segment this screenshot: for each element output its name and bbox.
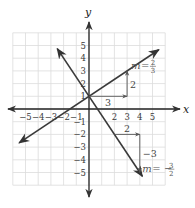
x-tick-label: 5 (150, 112, 155, 122)
x-tick-label: 4 (137, 112, 142, 122)
slope-label-prefix: m (142, 163, 151, 174)
rise-label: −3 (143, 148, 157, 159)
y-tick-label: 5 (81, 41, 86, 51)
rise-label: 2 (130, 79, 136, 90)
y-tick-label: 4 (81, 53, 86, 63)
slope-numerator: 3 (169, 162, 173, 170)
x-tick-label: 3 (124, 112, 129, 122)
x-axis-label: x (183, 103, 190, 116)
y-tick-label: −1 (73, 117, 86, 127)
y-tick-label: −4 (73, 155, 86, 165)
slope-label-equals: = (141, 60, 149, 71)
x-tick-label: 2 (112, 112, 117, 122)
slope-denominator: 3 (151, 67, 155, 75)
slope-denominator: 2 (169, 170, 173, 178)
slope-label-prefix: m (131, 60, 140, 71)
coordinate-plane: x y −5−4−3−2−12345 54321−1−2−3−4−5 32m =… (0, 0, 195, 208)
y-tick-label: 3 (81, 66, 86, 76)
run-label: 2 (124, 123, 130, 134)
run-label: 3 (105, 97, 111, 108)
x-tick-labels: −5−4−3−2−12345 (19, 112, 155, 122)
y-tick-label: −3 (73, 142, 86, 152)
y-axis-label: y (84, 6, 92, 19)
x-tick-label: −3 (45, 112, 58, 122)
slope-numerator: 2 (151, 59, 155, 67)
x-tick-label: −4 (32, 112, 45, 122)
x-tick-label: −5 (19, 112, 32, 122)
y-tick-label: −5 (73, 168, 86, 178)
y-tick-label: −2 (73, 129, 86, 139)
